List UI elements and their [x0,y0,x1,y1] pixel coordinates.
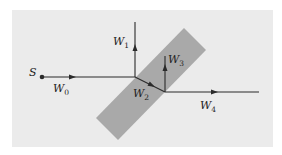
source-dot [40,75,45,80]
label-w0: W0 [53,82,69,97]
arrow-w4-icon [211,90,218,95]
label-w4: W4 [200,99,216,114]
label-w1: W1 [113,35,129,50]
arrow-w0-icon [69,75,76,80]
arrow-w1-icon [133,44,138,51]
source-label: S [29,66,37,79]
wave-diagram: S W0 W1 W2 W3 W4 [0,0,282,155]
